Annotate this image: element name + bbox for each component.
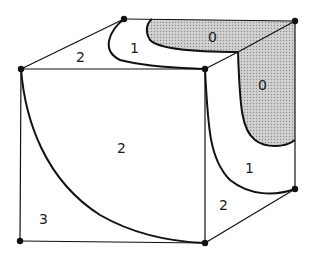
cube-diagram-svg: 2 1 0 0 1 2 3 2 <box>0 0 313 259</box>
contour-front-2-3 <box>21 69 205 243</box>
label-front-lower-left-3: 3 <box>39 211 48 227</box>
vertex-front-bottom-right <box>202 240 208 246</box>
edge-front-left <box>20 69 21 241</box>
vertex-top-back-right <box>292 18 298 24</box>
cube-diagram: 2 1 0 0 1 2 3 2 <box>0 0 313 259</box>
vertex-top-back-left <box>121 16 127 22</box>
vertex-front-bottom-left <box>17 238 23 244</box>
label-top-left-2: 2 <box>76 49 85 65</box>
vertex-back-bottom-right <box>292 186 298 192</box>
label-right-middle-1: 1 <box>245 160 254 176</box>
label-right-lower-2: 2 <box>219 197 228 213</box>
label-top-middle-1: 1 <box>130 40 139 56</box>
vertex-front-top-left <box>18 66 24 72</box>
label-top-right-0: 0 <box>208 29 217 45</box>
edge-top-diagonal-2 <box>205 52 238 69</box>
vertex-front-top-right <box>202 66 208 72</box>
label-front-center-2: 2 <box>117 140 126 156</box>
label-right-upper-0: 0 <box>258 77 267 93</box>
